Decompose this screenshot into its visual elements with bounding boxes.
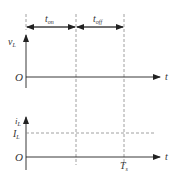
svg-text:Ts: Ts [120, 160, 129, 172]
svg-text:iL: iL [15, 116, 22, 127]
diagram-canvas: ton toff vL O t iL IL O t Ts [0, 0, 179, 181]
origin-top-label: O [15, 71, 23, 83]
t-axis-bottom-label: t [165, 151, 168, 162]
waveform-diagram: ton toff vL O t iL IL O t Ts [0, 0, 179, 181]
svg-text:IL: IL [12, 128, 20, 140]
origin-bottom-label: O [15, 151, 23, 163]
svg-text:toff: toff [93, 13, 103, 25]
svg-text:vL: vL [8, 36, 16, 48]
t-axis-top-label: t [165, 71, 168, 82]
svg-text:ton: ton [45, 13, 54, 25]
